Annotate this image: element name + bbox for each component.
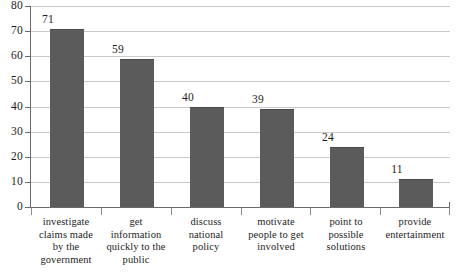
bar-value-discuss-policy: 40: [172, 91, 204, 103]
x-tick-6: [449, 208, 450, 215]
gridline-10: [31, 182, 450, 183]
category-label-line: by the: [31, 241, 101, 254]
category-label-investigate-claims: investigate claims made by the governmen…: [31, 216, 101, 266]
bar-get-information: [120, 59, 154, 207]
category-label-discuss-policy: discuss national policy: [171, 216, 241, 254]
x-tick-1: [101, 208, 102, 215]
category-label-provide-entertainment: provide entertainment: [380, 216, 450, 241]
y-axis-label-40: 40: [1, 101, 23, 113]
category-label-line: national: [171, 229, 241, 242]
x-tick-0: [31, 208, 32, 215]
category-label-line: quickly to the: [101, 241, 171, 254]
x-tick-5: [380, 208, 381, 215]
category-label-get-information: get information quickly to the public: [101, 216, 171, 266]
category-label-line: discuss: [171, 216, 241, 229]
y-axis-label-80: 80: [1, 0, 23, 12]
bar-discuss-policy: [190, 107, 224, 207]
category-label-line: provide: [380, 216, 450, 229]
category-label-motivate-people: motivate people to get involved: [241, 216, 311, 254]
x-tick-2: [171, 208, 172, 215]
bar-provide-entertainment: [399, 179, 433, 207]
category-label-line: investigate: [31, 216, 101, 229]
gridline-70: [31, 31, 450, 32]
y-axis-label-20: 20: [1, 151, 23, 163]
x-tick-4: [310, 208, 311, 215]
gridline-40: [31, 107, 450, 108]
y-tick-60: [25, 56, 30, 57]
category-label-line: public: [101, 254, 171, 267]
bar-value-provide-entertainment: 11: [381, 163, 413, 175]
bar-investigate-claims: [50, 29, 84, 207]
y-axis-label-0: 0: [1, 201, 23, 213]
category-label-line: involved: [241, 241, 311, 254]
plot-area: [31, 6, 450, 207]
bar-value-motivate-people: 39: [242, 93, 274, 105]
category-label-line: get: [101, 216, 171, 229]
category-label-line: solutions: [311, 241, 381, 254]
gridline-80: [31, 6, 450, 7]
category-label-line: entertainment: [380, 229, 450, 242]
y-tick-20: [25, 157, 30, 158]
y-axis-label-50: 50: [1, 75, 23, 87]
x-axis-line: [30, 207, 450, 208]
bar-point-solutions: [330, 147, 364, 207]
y-axis-label-10: 10: [1, 176, 23, 188]
bar-value-get-information: 59: [102, 43, 134, 55]
y-tick-80: [25, 6, 30, 7]
y-axis-label-70: 70: [1, 25, 23, 37]
y-tick-50: [25, 81, 30, 82]
category-label-point-solutions: point to possible solutions: [311, 216, 381, 254]
category-label-line: motivate: [241, 216, 311, 229]
bar-chart: 80 70 60 50 40 30 20 10 0 71 59 40 39 24…: [0, 0, 460, 272]
category-label-line: claims made: [31, 229, 101, 242]
y-tick-70: [25, 31, 30, 32]
y-axis-label-30: 30: [1, 126, 23, 138]
category-label-line: policy: [171, 241, 241, 254]
x-tick-3: [241, 208, 242, 215]
y-axis-label-60: 60: [1, 50, 23, 62]
x-axis-category-labels: investigate claims made by the governmen…: [31, 216, 450, 272]
category-label-line: possible: [311, 229, 381, 242]
y-tick-10: [25, 182, 30, 183]
gridline-60: [31, 56, 450, 57]
bar-motivate-people: [260, 109, 294, 207]
y-tick-0: [25, 207, 30, 208]
y-axis-line: [30, 6, 31, 208]
category-label-line: people to get: [241, 229, 311, 242]
bar-value-investigate-claims: 71: [32, 13, 64, 25]
gridline-50: [31, 81, 450, 82]
gridline-30: [31, 132, 450, 133]
y-tick-40: [25, 107, 30, 108]
y-tick-30: [25, 132, 30, 133]
bar-value-point-solutions: 24: [312, 131, 344, 143]
category-label-line: government: [31, 254, 101, 267]
gridline-20: [31, 157, 450, 158]
category-label-line: information: [101, 229, 171, 242]
category-label-line: point to: [311, 216, 381, 229]
